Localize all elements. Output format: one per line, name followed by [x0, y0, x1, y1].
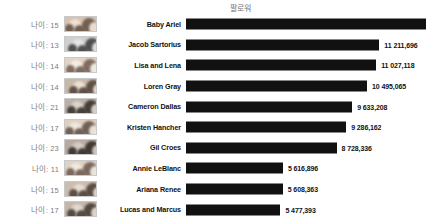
portrait-thumbnail-icon	[64, 36, 97, 52]
bar	[186, 204, 280, 215]
bar-area: 5 616,896	[186, 158, 426, 179]
portrait-thumbnail-icon	[64, 57, 97, 73]
bar-value-label: 5 477,393	[285, 206, 315, 213]
portrait-thumbnail-icon	[64, 16, 97, 32]
creator-name: Cameron Dallas	[101, 102, 186, 111]
bar	[186, 163, 283, 174]
age-label: 나이: 17	[0, 122, 64, 133]
bar-value-label: 5 616,896	[288, 165, 318, 172]
avatar	[64, 16, 98, 33]
creator-name: Gil Croes	[101, 143, 186, 152]
age-label: 나이: 11	[0, 163, 64, 174]
chart-row: 나이: 14Loren Gray10 495,065	[0, 76, 426, 97]
chart-row: 나이: 17Kristen Hancher9 286,162	[0, 117, 426, 138]
age-label: 나이: 15	[0, 19, 64, 30]
bar-area: 5 608,363	[186, 179, 426, 200]
bar	[186, 81, 367, 92]
chart-row: 나이: 14Lisa and Lena11 027,118	[0, 55, 426, 76]
portrait-thumbnail-icon	[64, 201, 97, 217]
creator-name: Lucas and Marcus	[101, 205, 186, 214]
avatar	[64, 78, 98, 95]
bar-value-label: 9 286,162	[351, 124, 381, 131]
bar-area: 10 495,065	[186, 76, 426, 97]
portrait-thumbnail-icon	[64, 181, 97, 197]
chart-row: 나이: 17Lucas and Marcus5 477,393	[0, 199, 426, 220]
chart-row: 나이: 15Ariana Renee5 608,363	[0, 179, 426, 200]
creator-name: Baby Ariel	[101, 20, 186, 29]
chart-rows: 나이: 15Baby Ariel13 915,130나이: 13Jacob Sa…	[0, 14, 426, 220]
portrait-thumbnail-icon	[64, 119, 97, 135]
bar-area: 9 286,162	[186, 117, 426, 138]
chart-row: 나이: 13Jacob Sartorius11 211,696	[0, 35, 426, 56]
creator-name: Annie LeBlanc	[101, 164, 186, 173]
bar	[186, 60, 376, 71]
avatar	[64, 160, 98, 177]
creator-name: Lisa and Lena	[101, 61, 186, 70]
chart-row: 나이: 15Baby Ariel13 915,130	[0, 14, 426, 35]
age-label: 나이: 23	[0, 142, 64, 153]
avatar	[64, 98, 98, 115]
bar-value-label: 5 608,363	[288, 186, 318, 193]
avatar	[64, 181, 98, 198]
portrait-thumbnail-icon	[64, 78, 97, 94]
bar	[186, 19, 426, 30]
chart-row: 나이: 23Gil Croes8 728,336	[0, 138, 426, 159]
age-label: 나이: 17	[0, 204, 64, 215]
creator-name: Kristen Hancher	[101, 123, 186, 132]
portrait-thumbnail-icon	[64, 98, 97, 114]
bar-value-label: 11 211,696	[384, 41, 417, 48]
bar-value-label: 11 027,118	[381, 62, 414, 69]
bar-area: 11 027,118	[186, 55, 426, 76]
bar-value-label: 10 495,065	[372, 83, 406, 90]
bar-area: 9 633,208	[186, 96, 426, 117]
bar-value-label: 9 633,208	[357, 103, 387, 110]
avatar	[64, 36, 98, 53]
bar	[186, 101, 352, 112]
avatar	[64, 119, 98, 136]
creator-name: Loren Gray	[101, 82, 186, 91]
chart-row: 나이: 21Cameron Dallas9 633,208	[0, 96, 426, 117]
creator-name: Jacob Sartorius	[101, 40, 186, 49]
portrait-thumbnail-icon	[64, 139, 97, 155]
followers-bar-chart: 팔로워 나이: 15Baby Ariel13 915,130나이: 13Jaco…	[0, 0, 426, 221]
bar-area: 13 915,130	[186, 14, 426, 35]
avatar	[64, 139, 98, 156]
age-label: 나이: 13	[0, 39, 64, 50]
bar-value-label: 8 728,336	[342, 144, 372, 151]
age-label: 나이: 14	[0, 60, 64, 71]
age-label: 나이: 14	[0, 81, 64, 92]
chart-row: 나이: 11Annie LeBlanc5 616,896	[0, 158, 426, 179]
bar-area: 5 477,393	[186, 199, 426, 220]
age-label: 나이: 21	[0, 101, 64, 112]
portrait-thumbnail-icon	[64, 160, 97, 176]
age-label: 나이: 15	[0, 184, 64, 195]
avatar	[64, 201, 98, 218]
chart-title: 팔로워	[0, 2, 426, 13]
creator-name: Ariana Renee	[101, 185, 186, 194]
bar	[186, 184, 283, 195]
bar	[186, 122, 346, 133]
bar	[186, 39, 379, 50]
bar-area: 11 211,696	[186, 35, 426, 56]
bar-area: 8 728,336	[186, 138, 426, 159]
avatar	[64, 57, 98, 74]
bar	[186, 142, 337, 153]
